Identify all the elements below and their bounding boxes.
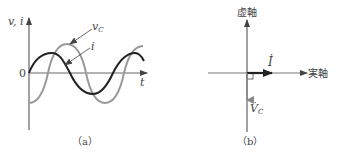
y-axis-label: v, i [8,15,23,28]
caption-b: （b） [237,136,263,147]
origin-label: 0 [19,67,26,80]
x-axis-label: t [140,76,145,89]
figure: v, i 0 t vC i （a） 虚軸 実軸 İ V̇C （b） [0,0,338,159]
i-label: i [91,40,95,53]
panel-a-waveforms: v, i 0 t vC i （a） [8,15,147,147]
imag-axis-label: 虚軸 [237,6,257,18]
vc-phasor-label: V̇C [250,102,264,116]
i-phasor-label: İ [267,54,273,69]
caption-a: （a） [72,136,98,147]
vc-label: vC [92,20,104,34]
panel-b-phasor-diagram: 虚軸 実軸 İ V̇C （b） [208,6,328,147]
real-axis-label: 実軸 [308,67,328,79]
vc-leader-line [70,29,92,44]
